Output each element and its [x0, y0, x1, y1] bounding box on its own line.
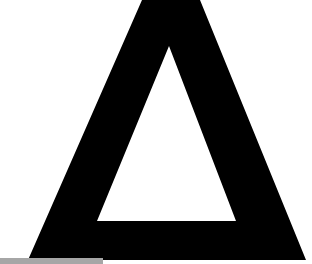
gray-bar: [0, 258, 103, 264]
triangle-glyph: [28, 0, 306, 260]
delta-triangle-icon: [0, 0, 312, 264]
image-canvas: [0, 0, 312, 264]
